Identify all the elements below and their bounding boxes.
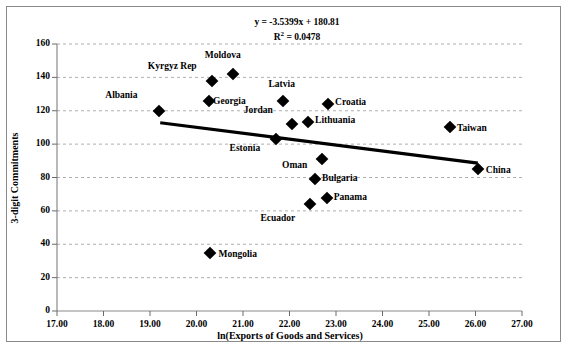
r-squared-value: = 0.0478 (284, 32, 320, 42)
x-tick-label: 19.00 (139, 320, 160, 330)
chart-figure: 020406080100120140160 17.0018.0019.0020.… (0, 0, 568, 356)
data-point-label: Ecuador (260, 214, 295, 224)
y-tick-label: 0 (27, 306, 50, 316)
x-tick-label: 25.00 (418, 320, 439, 330)
data-point-label: Taiwan (457, 124, 487, 134)
x-tick-label: 20.00 (186, 320, 207, 330)
data-point-label: Kyrgyz Rep (148, 62, 197, 72)
x-axis-title: ln(Exports of Goods and Services) (217, 330, 363, 341)
x-tick-label: 18.00 (93, 320, 114, 330)
y-tick-label: 80 (27, 173, 50, 183)
data-point-label: Panama (334, 193, 367, 203)
x-tick-label: 17.00 (46, 320, 67, 330)
data-point-label: Albania (105, 91, 137, 101)
y-tick-label: 60 (27, 206, 50, 216)
data-point-label: China (486, 166, 511, 176)
data-point-label: Oman (282, 161, 307, 171)
x-tick-label: 21.00 (232, 320, 253, 330)
regression-equation: y = -3.5399x + 180.81 (254, 17, 339, 27)
y-tick-label: 160 (27, 39, 50, 49)
y-tick-label: 120 (27, 106, 50, 116)
x-tick-label: 26.00 (465, 320, 486, 330)
x-tick-label: 27.00 (511, 320, 532, 330)
r-squared-annotation: R2 = 0.0478 (274, 30, 321, 42)
data-point-label: Croatia (335, 98, 366, 108)
r-squared-prefix: R (274, 32, 281, 42)
x-tick-label: 24.00 (372, 320, 393, 330)
data-point-label: Jordan (244, 106, 273, 116)
y-tick-label: 20 (27, 273, 50, 283)
x-tick-label: 23.00 (325, 320, 346, 330)
data-point-label: Mongolia (218, 250, 257, 260)
data-point-label: Estonia (230, 144, 261, 154)
y-tick-label: 100 (27, 139, 50, 149)
data-point-label: Bulgaria (322, 174, 357, 184)
y-tick-label: 40 (27, 240, 50, 250)
x-tick-label: 22.00 (279, 320, 300, 330)
plot-canvas (0, 0, 568, 356)
y-axis-title: 3-digit Commitments (9, 133, 20, 224)
data-point-label: Georgia (213, 97, 246, 107)
data-point-label: Lithuania (315, 116, 355, 126)
data-point-label: Latvia (269, 80, 295, 90)
y-tick-label: 140 (27, 73, 50, 83)
data-point-label: Moldova (205, 51, 241, 61)
